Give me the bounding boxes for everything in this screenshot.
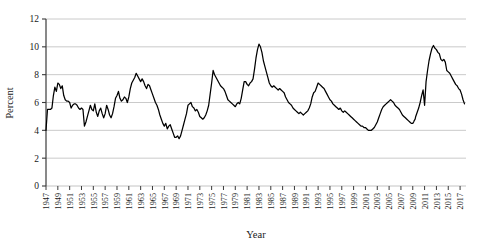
x-tick-label: 2007 — [397, 193, 406, 209]
x-tick-label: 2003 — [373, 193, 382, 209]
x-tick-label: 1981 — [243, 193, 252, 209]
x-tick-label: 1949 — [54, 193, 63, 209]
x-tick-label: 1989 — [291, 193, 300, 209]
x-tick-label: 1953 — [78, 193, 87, 209]
x-tick-label: 2011 — [421, 193, 430, 209]
x-tick-label: 1973 — [196, 193, 205, 209]
chart-plot-area: 024681012 194719491951195319551957195919… — [0, 0, 487, 243]
x-tick-label: 2013 — [433, 193, 442, 209]
x-tick-label: 2005 — [385, 193, 394, 209]
x-tick-label: 1947 — [42, 193, 51, 209]
x-tick-label: 1995 — [326, 193, 335, 209]
x-tick-label: 1959 — [113, 193, 122, 209]
x-tick-label: 1999 — [350, 193, 359, 209]
x-tick-label: 2001 — [362, 193, 371, 209]
y-axis-title: Percent — [4, 87, 15, 119]
x-tick-label: 1987 — [279, 193, 288, 209]
y-tick-label: 12 — [30, 14, 40, 24]
x-tick-label: 1997 — [338, 193, 347, 209]
x-tick-label: 1955 — [90, 193, 99, 209]
x-tick-label: 1969 — [172, 193, 181, 209]
x-tick-label: 1967 — [161, 193, 170, 209]
axes-group — [42, 19, 46, 186]
x-tick-label: 1983 — [255, 193, 264, 209]
x-tick-label: 1965 — [149, 193, 158, 209]
gridlines-group — [46, 19, 466, 186]
x-tick-marks-group — [46, 186, 460, 190]
y-tick-label: 0 — [34, 181, 39, 191]
x-tick-label: 1993 — [314, 193, 323, 209]
x-tick-label: 1975 — [208, 193, 217, 209]
chart-figure: 024681012 194719491951195319551957195919… — [0, 0, 487, 243]
x-tick-label: 1971 — [184, 193, 193, 209]
y-tick-label: 2 — [34, 154, 39, 164]
x-tick-label: 1957 — [101, 193, 110, 209]
x-tick-label: 1979 — [231, 193, 240, 209]
y-tick-label: 10 — [30, 42, 40, 52]
x-tick-label: 1977 — [220, 193, 229, 209]
unemployment-rate-line-chart: 024681012 194719491951195319551957195919… — [0, 0, 487, 243]
y-tick-label: 8 — [34, 70, 39, 80]
x-tick-label: 1951 — [66, 193, 75, 209]
x-tick-label: 2009 — [409, 193, 418, 209]
x-axis-title: Year — [246, 229, 266, 240]
y-tick-labels-group: 024681012 — [30, 14, 40, 191]
data-series-line — [46, 44, 465, 139]
x-tick-label: 1961 — [125, 193, 134, 209]
x-tick-label: 1991 — [302, 193, 311, 209]
y-tick-label: 4 — [34, 126, 39, 136]
x-tick-labels-group: 1947194919511953195519571959196119631965… — [42, 193, 465, 209]
y-tick-label: 6 — [34, 98, 39, 108]
x-tick-label: 2015 — [444, 193, 453, 209]
x-tick-label: 2017 — [456, 193, 465, 209]
x-tick-label: 1963 — [137, 193, 146, 209]
x-tick-label: 1985 — [267, 193, 276, 209]
